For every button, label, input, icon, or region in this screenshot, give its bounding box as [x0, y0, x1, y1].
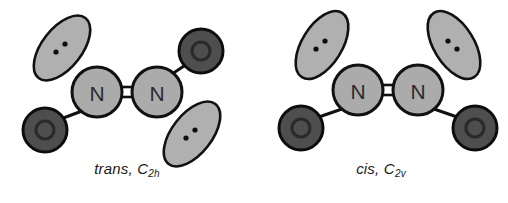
caption-cis: cis, C2v [254, 160, 508, 177]
atom-nitrogen-trans-right: N [132, 67, 182, 117]
lone-pair-dot [322, 38, 327, 43]
lone-pair-dot [62, 41, 67, 46]
atom-nitrogen-trans-left: N [72, 67, 122, 117]
lone-pair-dot [454, 46, 459, 51]
lone-pair-dot [445, 38, 450, 43]
structure-panel-trans: N N trans, C2h [0, 0, 254, 203]
atom-oxygen-cis-lower-right [453, 106, 497, 150]
caption-trans-point-group-symbol: C [137, 160, 148, 177]
atom-label-n-cis-right: N [410, 80, 425, 103]
caption-cis-point-group-subscript: 2v [395, 168, 406, 179]
atom-label-n-trans-left: N [89, 82, 104, 105]
structure-panel-cis: N N cis, C2v [254, 0, 508, 203]
caption-trans: trans, C2h [0, 160, 254, 177]
atom-oxygen-trans-upper-right [179, 29, 223, 73]
atom-label-n-cis-left: N [350, 80, 365, 103]
lone-pair-dot [192, 127, 197, 132]
atom-oxygen-trans-lower-left [23, 108, 67, 152]
atom-nitrogen-cis-right: N [393, 65, 443, 115]
molecular-structure-figure: N N trans, C2h [0, 0, 508, 203]
lone-pair-dot [183, 135, 188, 140]
lone-pair-dot [53, 49, 58, 54]
lone-pair-dot [313, 46, 318, 51]
atom-label-n-trans-right: N [149, 82, 164, 105]
atom-oxygen-cis-lower-left [279, 106, 323, 150]
trans-structure-diagram: N N [0, 0, 254, 168]
caption-cis-point-group-symbol: C [384, 160, 395, 177]
caption-trans-isomer: trans, [94, 160, 133, 177]
cis-structure-diagram: N N [254, 0, 508, 168]
caption-trans-point-group-subscript: 2h [148, 168, 160, 179]
atom-nitrogen-cis-left: N [333, 65, 383, 115]
caption-cis-isomer: cis, [356, 160, 379, 177]
